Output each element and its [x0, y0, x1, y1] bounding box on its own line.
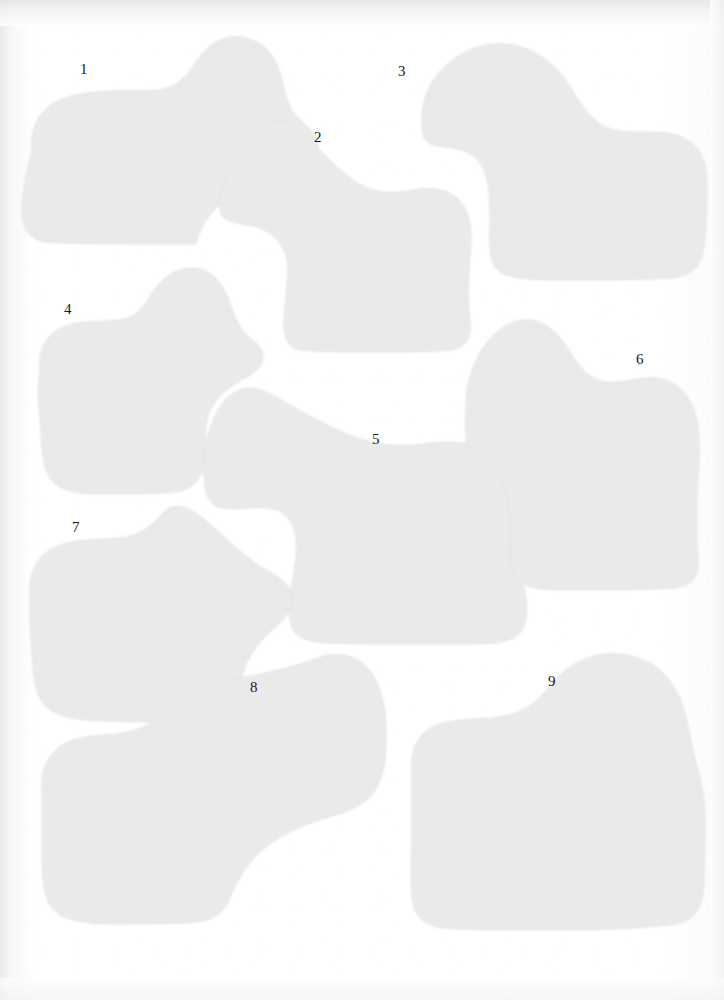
shape-canvas [0, 0, 724, 1000]
shape-number-label-6: 6 [636, 352, 644, 367]
outline-shape-9 [411, 654, 705, 930]
scanned-plate-page: 123456789 [0, 0, 724, 1000]
shape-number-label-4: 4 [64, 302, 72, 317]
outline-shape-2 [220, 120, 471, 352]
shape-number-label-8: 8 [250, 680, 258, 695]
shape-number-label-5: 5 [372, 432, 380, 447]
shape-number-label-7: 7 [72, 520, 80, 535]
shape-number-label-3: 3 [398, 64, 406, 79]
shape-number-label-9: 9 [548, 674, 556, 689]
shape-number-label-1: 1 [80, 62, 88, 77]
shape-number-label-2: 2 [314, 130, 322, 145]
